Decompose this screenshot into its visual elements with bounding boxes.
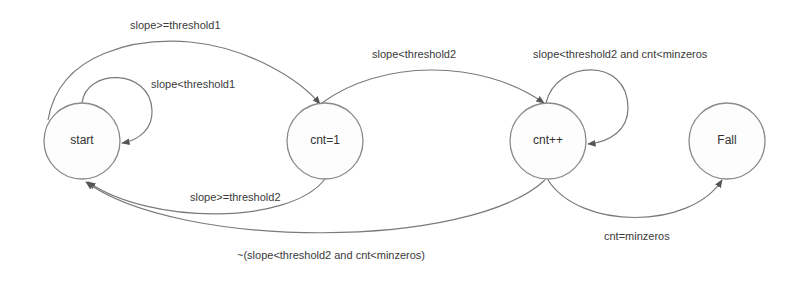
edge-cnt1-to-cntpp bbox=[322, 70, 544, 103]
edge-label-cntpp-to-start: ~(slope<threshold2 and cnt<minzeros) bbox=[237, 249, 425, 261]
edge-label-start-to-cnt1: slope>=threshold1 bbox=[130, 19, 221, 31]
state-label-start: start bbox=[70, 133, 94, 147]
edge-label-cntpp-self: slope<threshold2 and cnt<minzeros bbox=[533, 48, 708, 60]
state-label-cnt1: cnt=1 bbox=[310, 133, 340, 147]
state-diagram: slope>=threshold1 slope<threshold1 slope… bbox=[0, 0, 808, 284]
state-label-cntpp: cnt++ bbox=[533, 133, 563, 147]
edge-label-start-self: slope<threshold1 bbox=[151, 78, 235, 90]
state-cnt1: cnt=1 bbox=[287, 103, 363, 179]
edge-label-cnt1-to-cntpp: slope<threshold2 bbox=[372, 48, 456, 60]
edge-label-cntpp-to-fail: cnt=minzeros bbox=[604, 230, 670, 242]
state-start: start bbox=[44, 103, 120, 179]
edge-label-cnt1-to-start: slope>=threshold2 bbox=[190, 191, 281, 203]
edge-labels: slope>=threshold1 slope<threshold1 slope… bbox=[130, 19, 708, 261]
state-cntpp: cnt++ bbox=[510, 103, 586, 179]
edge-cntpp-to-fail bbox=[548, 180, 722, 218]
state-label-fail: Fall bbox=[717, 133, 736, 147]
edges bbox=[48, 41, 722, 232]
state-fail: Fall bbox=[689, 103, 765, 179]
